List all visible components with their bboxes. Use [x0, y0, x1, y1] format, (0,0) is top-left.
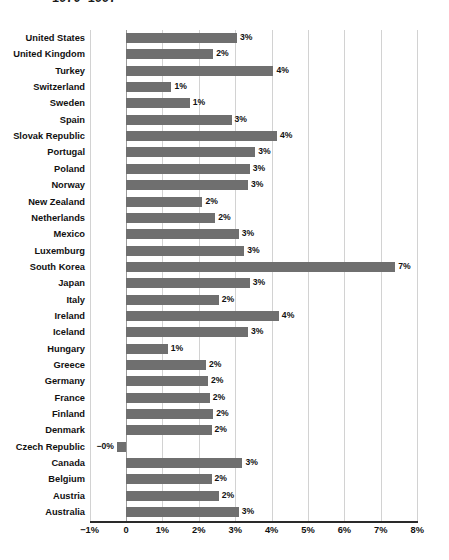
x-tick-label: 5% [301, 525, 314, 535]
category-label: Switzerland [0, 79, 85, 95]
bar-row: 3% [90, 161, 418, 177]
bar-row: 1% [90, 79, 418, 95]
bar-value-label: 3% [247, 244, 259, 256]
bar [126, 409, 213, 419]
bar-value-label: 2% [216, 407, 228, 419]
bar-row: 3% [90, 275, 418, 291]
bar [126, 180, 248, 190]
category-label: South Korea [0, 259, 85, 275]
x-tick-label: 1% [156, 525, 169, 535]
bar-row: 3% [90, 243, 418, 259]
bar-row: 2% [90, 357, 418, 373]
category-label: United States [0, 30, 85, 46]
bar [126, 82, 172, 92]
bar [126, 311, 279, 321]
category-label: Finland [0, 406, 85, 422]
category-label: Spain [0, 112, 85, 128]
bar-row: 3% [90, 455, 418, 471]
category-label: Poland [0, 161, 85, 177]
bar-value-label: 2% [213, 391, 225, 403]
category-label: France [0, 390, 85, 406]
bar-value-label: −0% [96, 440, 113, 452]
gridline-8% [417, 30, 418, 521]
category-label: United Kingdom [0, 46, 85, 62]
category-label: Australia [0, 504, 85, 520]
bar [126, 262, 395, 272]
bar-row: 2% [90, 292, 418, 308]
category-label: Netherlands [0, 210, 85, 226]
bar [126, 213, 215, 223]
bar-value-label: 1% [171, 342, 183, 354]
bar-row: 1% [90, 341, 418, 357]
bar [126, 458, 242, 468]
bar-row: 3% [90, 504, 418, 520]
category-label: Belgium [0, 471, 85, 487]
bar [126, 115, 232, 125]
category-label: Luxemburg [0, 243, 85, 259]
category-label: Austria [0, 488, 85, 504]
bar-row: 4% [90, 128, 418, 144]
bar [126, 164, 250, 174]
bar-row: 2% [90, 194, 418, 210]
bar-value-label: 3% [235, 113, 247, 125]
bar-value-label: 2% [218, 211, 230, 223]
bar [126, 474, 212, 484]
bar-value-label: 2% [216, 47, 228, 59]
x-tick-label: 4% [265, 525, 278, 535]
bar [126, 376, 208, 386]
bar [126, 98, 190, 108]
bar-value-label: 3% [242, 227, 254, 239]
bar-row: 2% [90, 422, 418, 438]
bar [126, 229, 239, 239]
bar [126, 49, 213, 59]
category-label: Norway [0, 177, 85, 193]
bar-value-label: 3% [251, 325, 263, 337]
bar-row: 3% [90, 30, 418, 46]
bar-value-label: 3% [258, 145, 270, 157]
bar [126, 393, 210, 403]
bar [126, 246, 244, 256]
bar-value-label: 2% [209, 358, 221, 370]
category-label: Turkey [0, 63, 85, 79]
x-tick-label: 7% [374, 525, 387, 535]
bar-value-label: 2% [222, 293, 234, 305]
category-label: Czech Republic [0, 439, 85, 455]
bar-chart: 1970–1997 United StatesUnited KingdomTur… [0, 0, 449, 560]
bar-value-label: 3% [251, 178, 263, 190]
bar [126, 197, 202, 207]
bar-value-label: 4% [276, 64, 288, 76]
bar-value-label: 3% [253, 162, 265, 174]
bar-value-label: 1% [174, 80, 186, 92]
bar [126, 327, 248, 337]
bar-value-label: 2% [211, 374, 223, 386]
x-tick-label: −1% [80, 525, 99, 535]
bar-row: 4% [90, 308, 418, 324]
bar-row: 2% [90, 46, 418, 62]
bar [126, 491, 219, 501]
category-axis-labels: United StatesUnited KingdomTurkeySwitzer… [0, 30, 85, 521]
x-tick-label: 0 [123, 525, 128, 535]
bar [126, 131, 277, 141]
bar-row: 7% [90, 259, 418, 275]
category-label: Japan [0, 275, 85, 291]
bar-row: 1% [90, 95, 418, 111]
bar [126, 295, 219, 305]
bar-value-label: 2% [215, 423, 227, 435]
x-tick-label: 3% [228, 525, 241, 535]
x-axis-line [90, 521, 418, 523]
category-label: Portugal [0, 144, 85, 160]
category-label: Ireland [0, 308, 85, 324]
bar-row: 2% [90, 471, 418, 487]
bar-value-label: 4% [280, 129, 292, 141]
bar [126, 425, 212, 435]
bar [126, 33, 237, 43]
bar-value-label: 1% [193, 96, 205, 108]
bar-value-label: 3% [240, 31, 252, 43]
bar-rows: 3%2%4%1%1%3%4%3%3%3%2%2%3%3%7%3%2%4%3%1%… [90, 30, 418, 521]
bar [126, 66, 273, 76]
bar [126, 344, 168, 354]
category-label: Sweden [0, 95, 85, 111]
bar-row: 2% [90, 210, 418, 226]
category-label: Greece [0, 357, 85, 373]
bar-row: 3% [90, 177, 418, 193]
